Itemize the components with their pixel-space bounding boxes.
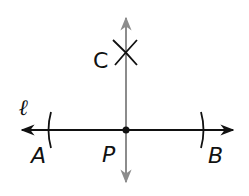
perpendicular-construction-diagram: ℓ A P B C — [0, 0, 249, 196]
label-line-l: ℓ — [19, 94, 28, 120]
label-b: B — [208, 143, 223, 168]
label-p: P — [102, 142, 116, 167]
point-p — [123, 127, 130, 134]
label-a: A — [29, 143, 46, 168]
label-c: C — [93, 48, 108, 73]
